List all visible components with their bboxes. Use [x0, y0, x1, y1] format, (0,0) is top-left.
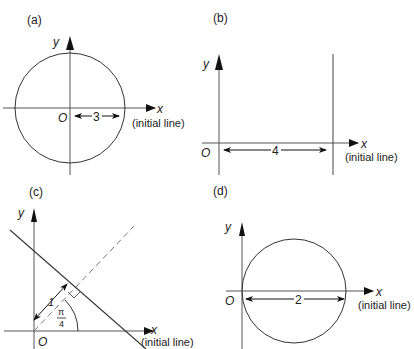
panel-b-y-label: y [202, 57, 210, 71]
panel-c: (c) y x (initial line) 1 π 4 O [4, 185, 194, 349]
polar-diagram-figure: (a) y x (initial line) O 3 (b) y x (init… [0, 0, 414, 349]
panel-b-distance-label: 4 [272, 144, 279, 158]
panel-a: (a) y x (initial line) O 3 [3, 13, 185, 175]
panel-d-y-arrow-icon [239, 222, 245, 236]
panel-c-distance-label: 1 [48, 296, 54, 308]
panel-d-x-note: (initial line) [358, 299, 411, 311]
panel-c-dashed-ray [34, 226, 134, 331]
panel-a-x-label: x [156, 102, 164, 116]
panel-b: (b) y x (initial line) O 4 [201, 11, 398, 175]
panel-a-label: (a) [27, 13, 42, 27]
panel-d-origin-label: O [225, 294, 234, 308]
panel-c-angle-numerator: π [58, 307, 64, 317]
panel-a-x-note: (initial line) [132, 117, 185, 129]
panel-b-label: (b) [213, 11, 228, 25]
panel-d-label: (d) [213, 184, 228, 198]
panel-b-origin-label: O [201, 146, 210, 160]
panel-d: (d) y x (initial line) O 2 [213, 184, 411, 349]
panel-a-y-arrow-icon [66, 36, 74, 50]
panel-d-diameter-label: 2 [295, 293, 302, 307]
panel-c-y-arrow-icon [31, 208, 37, 222]
panel-b-x-note: (initial line) [345, 151, 398, 163]
panel-c-angle-denominator: 4 [59, 319, 64, 329]
panel-d-y-label: y [224, 220, 232, 234]
panel-b-y-arrow-icon [215, 54, 223, 70]
panel-c-angle-arc [65, 300, 78, 331]
panel-d-x-label: x [375, 285, 383, 299]
panel-c-label: (c) [29, 185, 43, 199]
panel-a-radius-label: 3 [93, 110, 100, 124]
panel-c-origin-label: O [38, 335, 47, 349]
panel-c-x-note: (initial line) [141, 336, 194, 348]
panel-a-origin-label: O [58, 111, 67, 125]
panel-b-x-label: x [360, 137, 368, 151]
panel-a-y-label: y [52, 35, 60, 49]
panel-c-x-label: x [150, 323, 158, 337]
panel-c-y-label: y [17, 206, 25, 220]
